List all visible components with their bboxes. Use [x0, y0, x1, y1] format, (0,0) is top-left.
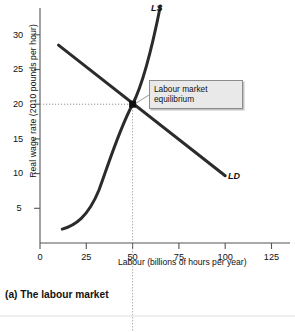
figure-caption: (a) The labour market	[5, 289, 109, 300]
x-tick-label-25: 25	[76, 252, 96, 262]
labour-demand-curve	[59, 45, 226, 176]
labour-supply-curve	[62, 6, 160, 229]
equilibrium-callout-line2: equilibrium	[154, 94, 238, 104]
x-tick-marks	[40, 243, 272, 249]
x-tick-label-0: 0	[31, 252, 49, 262]
y-axis-title: Real wage rate (2010 pounds per hour)	[28, 6, 38, 196]
x-tick-label-125: 125	[261, 252, 283, 262]
y-tick-label-20: 20	[8, 99, 28, 109]
y-tick-label-15: 15	[8, 134, 28, 144]
y-tick-label-5: 5	[10, 203, 28, 213]
equilibrium-callout: Labour market equilibrium	[149, 80, 243, 109]
labour-market-figure: 5 10 15 20 25 30 0 25 50 75 100 125 Real…	[0, 0, 295, 332]
chart-canvas	[0, 0, 295, 332]
x-axis-title: Labour (billions of hours per year)	[118, 257, 247, 267]
y-tick-label-10: 10	[8, 168, 28, 178]
y-tick-label-30: 30	[8, 30, 28, 40]
labour-supply-label: LS	[151, 3, 163, 13]
equilibrium-callout-line1: Labour market	[154, 84, 238, 94]
equilibrium-marker	[129, 101, 136, 108]
y-tick-label-25: 25	[8, 64, 28, 74]
labour-demand-label: LD	[228, 171, 240, 181]
